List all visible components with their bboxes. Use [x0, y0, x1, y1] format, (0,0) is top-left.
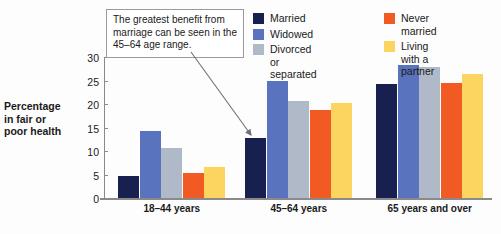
- y-axis-tick-mark: [104, 175, 108, 176]
- legend-item-label: Living with a partner: [401, 40, 437, 78]
- y-axis-tick-mark: [104, 81, 108, 82]
- legend-item[interactable]: Married: [253, 12, 317, 25]
- y-axis-tick: 10: [87, 142, 104, 160]
- y-axis-tick-mark: [104, 198, 108, 199]
- x-axis-label: 65 years and over: [370, 203, 490, 214]
- bar: [183, 173, 204, 198]
- y-axis-title-line-3: poor health: [4, 125, 76, 138]
- bar: [310, 110, 331, 198]
- bar: [331, 103, 352, 198]
- legend-swatch-icon: [384, 41, 395, 52]
- legend-item-label: Married: [270, 12, 306, 25]
- y-axis-tick-mark: [104, 104, 108, 105]
- y-axis-tick: 0: [93, 189, 104, 207]
- legend-item[interactable]: Never married: [384, 12, 437, 37]
- y-axis-tick-label: 10: [87, 146, 104, 158]
- y-axis-tick: 30: [87, 48, 104, 66]
- y-axis-tick: 5: [93, 166, 104, 184]
- bar: [398, 65, 419, 198]
- bar: [245, 138, 266, 198]
- legend-swatch-icon: [253, 29, 264, 40]
- y-axis-tick: 25: [87, 72, 104, 90]
- legend-item-label: Widowed: [270, 28, 313, 41]
- bar: [419, 67, 440, 198]
- bar: [288, 101, 309, 198]
- x-axis-line: [100, 198, 492, 200]
- legend-column-1: MarriedWidowedDivorced or separated: [253, 12, 317, 84]
- y-axis-tick-label: 20: [87, 99, 104, 111]
- y-axis-title-line-1: Percentage: [4, 100, 76, 113]
- bar: [267, 81, 288, 198]
- legend-column-2: Never marriedLiving with a partner: [384, 12, 437, 81]
- legend-swatch-icon: [253, 13, 264, 24]
- chart-figure: Percentage in fair or poor health 051015…: [0, 0, 501, 234]
- y-axis-tick-label: 15: [87, 123, 104, 135]
- y-axis-tick: 20: [87, 95, 104, 113]
- y-axis-tick-label: 30: [87, 52, 104, 64]
- legend-swatch-icon: [253, 44, 264, 55]
- legend-item[interactable]: Widowed: [253, 28, 317, 41]
- y-axis-tick-mark: [104, 128, 108, 129]
- bar-group: [118, 57, 226, 198]
- legend-item-label: Never married: [401, 12, 437, 37]
- callout-annotation: The greatest benefit from marriage can b…: [106, 9, 244, 58]
- bar: [161, 148, 182, 198]
- y-axis-tick-label: 5: [93, 170, 104, 182]
- y-axis-tick-label: 0: [93, 193, 104, 205]
- x-axis-label: 18–44 years: [112, 203, 232, 214]
- y-axis-tick-label: 25: [87, 76, 104, 88]
- bar: [441, 83, 462, 198]
- y-axis-tick: 15: [87, 119, 104, 137]
- bar: [140, 131, 161, 198]
- legend-item-label: Divorced or separated: [270, 43, 317, 81]
- y-axis-title: Percentage in fair or poor health: [4, 100, 76, 138]
- legend-item[interactable]: Divorced or separated: [253, 43, 317, 81]
- bar: [118, 176, 139, 198]
- x-axis-label: 45–64 years: [239, 203, 359, 214]
- y-axis-title-line-2: in fair or: [4, 113, 76, 126]
- y-axis-tick-mark: [104, 151, 108, 152]
- bar: [462, 74, 483, 198]
- legend-item[interactable]: Living with a partner: [384, 40, 437, 78]
- legend-swatch-icon: [384, 13, 395, 24]
- bar: [376, 84, 397, 198]
- bar: [204, 167, 225, 198]
